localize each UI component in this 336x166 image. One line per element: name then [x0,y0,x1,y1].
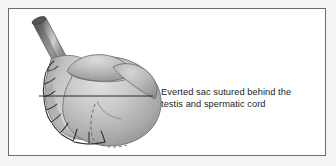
anatomical-illustration [9,9,326,156]
suture-thread-8 [74,142,89,144]
figure-frame: Everted sac sutured behind the testis an… [8,8,326,156]
suture-thread-3 [43,85,44,97]
annotation-label: Everted sac sutured behind the testis an… [161,87,311,110]
figure-root: Everted sac sutured behind the testis an… [0,0,336,166]
